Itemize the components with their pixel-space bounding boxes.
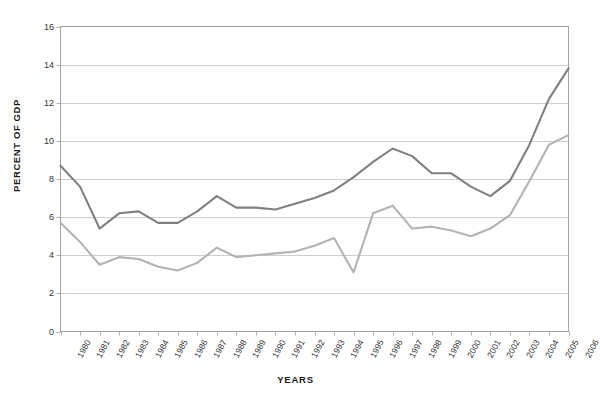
y-tick-label: 2 [28,288,54,298]
axis-lines [60,26,569,332]
axis-tickmarks [57,28,570,336]
y-tick-label: 8 [28,174,54,184]
y-tick-label: 10 [28,136,54,146]
y-tick-label: 6 [28,212,54,222]
line-series-upper [61,68,569,228]
data-series [61,68,569,272]
y-tick-label: 16 [28,22,54,32]
y-tick-label: 14 [28,60,54,70]
y-tick-label: 0 [28,327,54,337]
line-series-lower [61,135,569,272]
y-tick-label: 12 [28,98,54,108]
y-tick-label: 4 [28,250,54,260]
